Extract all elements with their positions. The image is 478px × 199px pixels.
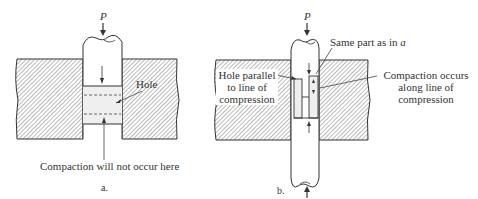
hole-parallel-line-3: compression bbox=[217, 93, 277, 105]
compaction-occurs-label: Compaction occurs along line of compress… bbox=[376, 69, 476, 105]
caption-b: b. bbox=[277, 185, 285, 197]
force-arrow-icon bbox=[100, 30, 106, 36]
hole-label: Hole bbox=[136, 78, 157, 90]
panel-a bbox=[16, 23, 179, 160]
die-block-right-b bbox=[319, 60, 370, 140]
hole-parallel-label: Hole parallel to line of compression bbox=[216, 69, 278, 105]
hole-parallel-part bbox=[294, 79, 302, 118]
hole-parallel-line-2: to line of bbox=[217, 81, 277, 93]
force-label-b: P bbox=[304, 10, 311, 22]
same-part-label: Same part as in a bbox=[330, 36, 406, 48]
compaction-occurs-line-3: compression bbox=[376, 93, 476, 105]
caption-a: a. bbox=[101, 182, 108, 194]
compaction-occurs-line-2: along line of bbox=[376, 81, 476, 93]
die-block-right-a bbox=[122, 59, 179, 139]
compaction-note-a: Compaction will not occur here bbox=[40, 160, 179, 172]
panel-b bbox=[215, 23, 377, 198]
force-arrow-icon bbox=[304, 30, 310, 36]
compaction-occurs-line-1: Compaction occurs bbox=[376, 69, 476, 81]
hole-parallel-line-1: Hole parallel bbox=[217, 69, 277, 81]
force-label-a: P bbox=[100, 10, 107, 22]
compact-region-a bbox=[83, 86, 122, 124]
same-part-ref: a bbox=[400, 36, 406, 48]
reaction-arrow-icon bbox=[304, 186, 310, 192]
same-part-prefix: Same part as in bbox=[330, 36, 400, 48]
die-block-left-a bbox=[16, 59, 83, 139]
